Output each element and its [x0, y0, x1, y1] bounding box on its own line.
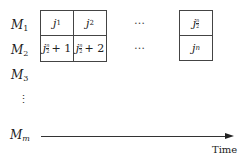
job-cell-j1: j1 — [40, 10, 74, 36]
horizontal-ellipsis-row2: … — [134, 39, 146, 52]
fraction-n-over-2: n 2 — [196, 18, 199, 29]
fraction-n-over-2: n 2 — [46, 43, 49, 54]
job-cell-j-n-half: j n 2 — [179, 10, 213, 36]
fraction-n-over-2: n 2 — [79, 43, 82, 54]
machine-label-m3: M3 — [11, 69, 28, 85]
machine-label-m1: M1 — [11, 19, 28, 35]
job-cell-j-n-half-plus-2: j n 2 + 2 — [73, 35, 107, 62]
job-cell-j-n-half-plus-1: j n 2 + 1 — [40, 35, 74, 62]
vertical-ellipsis: ⋮ — [18, 98, 29, 102]
arrow-head-icon — [225, 133, 234, 139]
machine-label-mm: Mm — [10, 129, 30, 145]
job-cell-jn: jn — [179, 35, 213, 61]
time-axis-label: Time — [212, 144, 237, 155]
horizontal-ellipsis-row1: … — [134, 14, 146, 27]
job-cell-j2: j2 — [73, 10, 107, 36]
time-axis-line — [41, 136, 227, 137]
machine-label-m2: M2 — [11, 44, 28, 60]
